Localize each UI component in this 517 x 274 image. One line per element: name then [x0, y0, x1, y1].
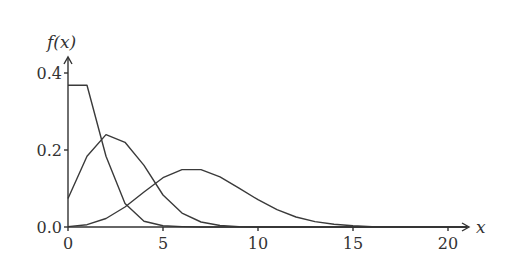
x-tick-label: 10 [248, 234, 268, 253]
x-tick-label: 5 [158, 234, 168, 253]
x-axis-label: x [476, 217, 486, 237]
y-tick-label: 0.0 [37, 218, 62, 237]
poisson-chart: 051015200.00.20.4 x f(x) [0, 0, 517, 274]
x-tick-label: 20 [438, 234, 458, 253]
series-line-1 [68, 135, 467, 227]
ticks: 051015200.00.20.4 [37, 64, 459, 253]
x-tick-label: 0 [63, 234, 73, 253]
series-group [68, 85, 467, 227]
series-line-2 [68, 170, 467, 227]
y-axis-label: f(x) [45, 32, 76, 52]
y-tick-label: 0.2 [37, 141, 62, 160]
series-line-0 [68, 85, 467, 227]
y-tick-label: 0.4 [37, 64, 62, 83]
x-tick-label: 15 [343, 234, 363, 253]
